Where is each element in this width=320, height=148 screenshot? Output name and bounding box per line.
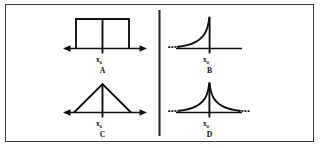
panel-d: x0 D xyxy=(169,83,250,140)
panel-a-axis-arrow-right xyxy=(140,45,148,52)
panel-a-origin-subscript: 0 xyxy=(100,60,103,65)
panel-c-label: C xyxy=(100,130,105,139)
panel-c-axis-arrow-right xyxy=(140,109,148,116)
figure-canvas: x0 A x0 B xyxy=(0,0,320,148)
figure-root: x0 A x0 B xyxy=(0,0,320,148)
panel-d-label: D xyxy=(207,130,213,139)
panel-b: x0 B xyxy=(169,17,242,75)
panel-d-origin-label: x0 xyxy=(203,120,210,129)
panel-b-one-sided-exponential-curve xyxy=(178,18,209,47)
panel-a-origin-label: x0 xyxy=(96,56,103,65)
panel-b-label: B xyxy=(207,66,212,75)
panel-c-origin-subscript: 0 xyxy=(100,124,103,129)
panel-a: x0 A xyxy=(63,19,147,75)
panel-d-origin-subscript: 0 xyxy=(207,124,210,129)
panel-c-axis-arrow-left xyxy=(63,109,71,116)
panel-b-origin-label: x0 xyxy=(203,56,210,65)
panel-a-axis-arrow-left xyxy=(63,45,71,52)
panel-c: x0 C xyxy=(63,84,147,139)
panel-b-origin-subscript: 0 xyxy=(207,60,210,65)
panel-c-origin-label: x0 xyxy=(96,120,103,129)
panel-a-label: A xyxy=(100,66,106,75)
